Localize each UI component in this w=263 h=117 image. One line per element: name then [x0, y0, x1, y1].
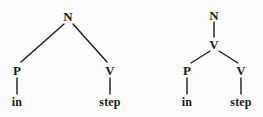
tree-branch-lines	[0, 0, 263, 117]
tree-node-l-p: P	[13, 64, 21, 77]
syntax-tree-figure: NPVinstepNVPVinstep	[0, 0, 263, 117]
tree-edge-l-n-to-l-p	[21, 24, 64, 62]
tree-node-r-p: P	[183, 64, 191, 77]
tree-node-r-in: in	[182, 96, 192, 108]
tree-edge-r-v1-to-r-v2	[219, 51, 238, 63]
tree-node-r-v2: V	[236, 64, 246, 77]
tree-node-r-v1: V	[209, 38, 219, 51]
tree-node-l-in: in	[12, 96, 22, 108]
tree-node-r-n: N	[209, 9, 219, 22]
tree-node-r-step: step	[230, 96, 251, 108]
tree-node-l-n: N	[63, 10, 73, 23]
tree-edge-l-n-to-l-v	[73, 24, 107, 62]
tree-node-l-v: V	[105, 64, 115, 77]
tree-edge-r-v1-to-r-p	[191, 51, 210, 63]
tree-node-l-step: step	[99, 96, 120, 108]
